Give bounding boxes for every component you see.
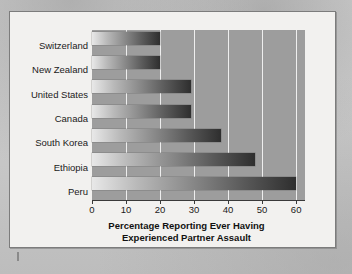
y-label-south-korea: South Korea bbox=[10, 137, 88, 148]
x-tick-label-10: 10 bbox=[121, 204, 132, 215]
bar-peru bbox=[92, 177, 296, 190]
bar-united-states bbox=[92, 80, 191, 93]
x-tick-label-30: 30 bbox=[189, 204, 200, 215]
bar-ethiopia bbox=[92, 153, 255, 166]
bar-series bbox=[92, 30, 305, 200]
bar-fill bbox=[92, 105, 191, 118]
y-label-new-zealand: New Zealand bbox=[10, 64, 88, 75]
x-axis-title: Percentage Reporting Ever Having Experie… bbox=[50, 220, 323, 243]
bar-canada bbox=[92, 105, 191, 118]
x-axis-title-line-2: Experienced Partner Assault bbox=[50, 232, 323, 244]
bar-chart: SwitzerlandNew ZealandUnited StatesCanad… bbox=[10, 12, 335, 247]
page-corner-tick bbox=[17, 252, 19, 261]
bar-new-zealand bbox=[92, 56, 160, 69]
x-tick-label-40: 40 bbox=[223, 204, 234, 215]
bar-fill bbox=[92, 153, 255, 166]
x-tick-label-60: 60 bbox=[291, 204, 302, 215]
y-label-ethiopia: Ethiopia bbox=[10, 162, 88, 173]
bar-south-korea bbox=[92, 129, 221, 142]
bar-switzerland bbox=[92, 32, 160, 45]
x-tick-label-20: 20 bbox=[155, 204, 166, 215]
bar-fill bbox=[92, 32, 160, 45]
y-axis-category-labels: SwitzerlandNew ZealandUnited StatesCanad… bbox=[10, 30, 88, 200]
x-tick-label-0: 0 bbox=[89, 204, 94, 215]
bar-fill bbox=[92, 80, 191, 93]
x-tick-label-50: 50 bbox=[257, 204, 268, 215]
bar-fill bbox=[92, 129, 221, 142]
plot-area bbox=[92, 30, 305, 200]
y-label-canada: Canada bbox=[10, 113, 88, 124]
figure-frame: SwitzerlandNew ZealandUnited StatesCanad… bbox=[9, 11, 336, 248]
bar-fill bbox=[92, 177, 296, 190]
x-axis-line bbox=[92, 200, 305, 201]
bar-fill bbox=[92, 56, 160, 69]
y-label-peru: Peru bbox=[10, 186, 88, 197]
y-label-united-states: United States bbox=[10, 89, 88, 100]
y-label-switzerland: Switzerland bbox=[10, 40, 88, 51]
x-axis-title-line-1: Percentage Reporting Ever Having bbox=[50, 220, 323, 232]
